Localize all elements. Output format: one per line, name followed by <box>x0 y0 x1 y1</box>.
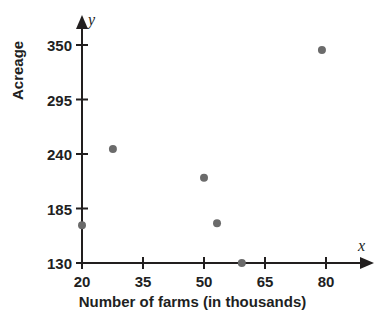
data-point-group <box>78 46 326 267</box>
y-axis-title: Acreage <box>10 41 25 100</box>
y-tick-label: 295 <box>22 92 72 107</box>
x-tick-label: 20 <box>74 274 91 289</box>
data-point <box>213 219 221 227</box>
y-axis-variable-label: y <box>88 12 95 28</box>
x-tick-label: 80 <box>318 274 335 289</box>
data-point <box>78 221 86 229</box>
x-tick-label: 50 <box>196 274 213 289</box>
y-tick-label: 350 <box>22 38 72 53</box>
data-point <box>200 174 208 182</box>
y-tick-label: 240 <box>22 147 72 162</box>
axis-lines <box>82 27 362 263</box>
x-tick-label: 35 <box>135 274 152 289</box>
x-axis-variable-label: x <box>358 238 365 254</box>
x-axis-title: Number of farms (in thousands) <box>0 294 385 309</box>
y-tick-label: 130 <box>22 256 72 271</box>
data-point <box>238 259 246 267</box>
scatter-plot-figure: 130185240295350 2035506580 y x Number of… <box>0 0 385 332</box>
data-point <box>318 46 326 54</box>
x-tick-label: 65 <box>257 274 274 289</box>
y-tick-label: 185 <box>22 201 72 216</box>
data-point <box>109 145 117 153</box>
